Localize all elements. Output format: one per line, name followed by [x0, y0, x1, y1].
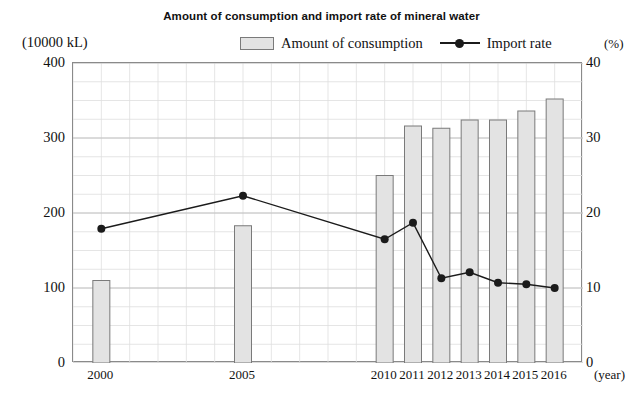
y-axis-tick-label: 0 — [5, 355, 65, 370]
chart-legend: Amount of consumption Import rate — [240, 33, 552, 53]
x-axis-tick-label: 2014 — [484, 368, 510, 381]
x-axis-tick-label: 2012 — [427, 368, 453, 381]
chart-title: Amount of consumption and import rate of… — [0, 10, 643, 22]
y-axis-unit-left: (10000 kL) — [22, 34, 88, 51]
y-axis-tick-label: 300 — [5, 130, 65, 145]
chart-container: Amount of consumption and import rate of… — [0, 0, 643, 407]
y2-axis-tick-label: 30 — [586, 130, 626, 145]
x-axis-tick-label: 2013 — [456, 368, 482, 381]
y2-axis-tick-label: 20 — [586, 205, 626, 220]
legend-line-marker-import-rate — [440, 37, 480, 49]
x-axis-unit: (year) — [594, 368, 625, 381]
x-axis-tick-label: 2011 — [399, 368, 425, 381]
legend-swatch-consumption — [240, 37, 274, 50]
y-axis-tick-label: 400 — [5, 55, 65, 70]
y2-axis-tick-label: 10 — [586, 280, 626, 295]
y-axis-tick-label: 100 — [5, 280, 65, 295]
legend-label-import-rate: Import rate — [487, 36, 552, 51]
x-axis-tick-label: 2010 — [371, 368, 397, 381]
legend-label-consumption: Amount of consumption — [281, 36, 423, 51]
x-axis-tick-label: 2000 — [87, 368, 113, 381]
y2-axis-tick-label: 40 — [586, 55, 626, 70]
y-axis-tick-label: 200 — [5, 205, 65, 220]
x-axis-tick-label: 2016 — [541, 368, 567, 381]
plot-area — [72, 62, 582, 362]
x-axis-tick-label: 2005 — [229, 368, 255, 381]
x-axis-tick-label: 2015 — [512, 368, 538, 381]
plot-svg — [73, 63, 583, 363]
legend-dot-icon — [455, 39, 464, 48]
y-axis-unit-right: (%) — [604, 36, 624, 52]
